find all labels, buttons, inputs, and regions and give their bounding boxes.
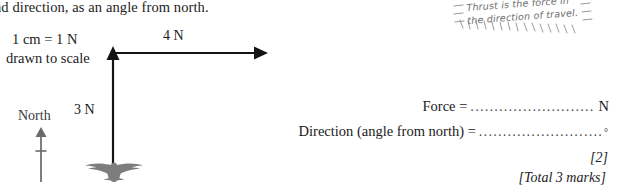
answer-lines: Force = .......................... N Dir… — [0, 98, 620, 140]
part-marks: [2] — [0, 148, 608, 168]
scale-key-line1: 1 cm = 1 N — [12, 31, 77, 47]
scale-key-line2: drawn to scale — [6, 49, 90, 68]
force-unit: N — [599, 98, 609, 115]
horizontal-force-label: 4 N — [163, 28, 184, 44]
question-page: nd direction, as an angle from north. 1 … — [0, 0, 620, 190]
scale-key: 1 cm = 1 N drawn to scale — [12, 30, 90, 68]
direction-label: Direction (angle from north) = — [299, 123, 476, 140]
answer-row-force: Force = .......................... N — [0, 98, 620, 115]
force-label: Force = — [423, 98, 468, 115]
marks-block: [2] [Total 3 marks] — [0, 148, 620, 188]
teacher-annotation: Thrust is the force in the direction of … — [452, 0, 594, 34]
total-marks: [Total 3 marks] — [0, 168, 608, 188]
direction-answer-blank[interactable]: .......................... — [479, 123, 603, 140]
direction-unit: ° — [604, 127, 608, 138]
question-stem: nd direction, as an angle from north. — [0, 0, 209, 16]
answer-row-direction: Direction (angle from north) = .........… — [0, 123, 620, 140]
right-arrow-icon — [113, 47, 268, 60]
force-answer-blank[interactable]: .......................... — [470, 98, 594, 115]
